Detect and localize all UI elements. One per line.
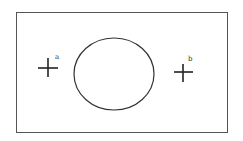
- central-ellipse: [74, 38, 154, 110]
- marker-label-a: a: [55, 53, 59, 61]
- cross-marker-b: [174, 64, 193, 82]
- diagram-canvas: a b: [0, 0, 243, 141]
- marker-label-b: b: [188, 55, 193, 63]
